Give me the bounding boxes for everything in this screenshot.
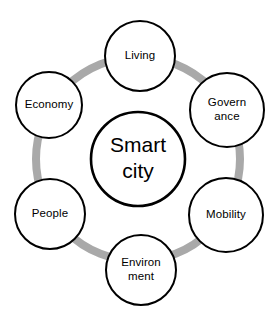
center-hub-layer: Smartcity	[91, 112, 185, 206]
node-governance[interactable]: Governance	[190, 73, 264, 147]
node-mobility-label-line1: Mobility	[206, 208, 246, 220]
smart-city-hub-label-line1: Smart	[110, 133, 166, 156]
node-people-label-line1: People	[32, 207, 68, 219]
node-governance-label-line2: ance	[214, 110, 239, 122]
node-environment[interactable]: Environment	[106, 235, 176, 305]
node-economy-label-line1: Economy	[25, 98, 74, 110]
node-economy[interactable]: Economy	[16, 72, 82, 138]
smart-city-diagram: LivingGovernanceMobilityEnvironmentPeopl…	[0, 0, 277, 320]
smart-city-hub-label-line2: city	[122, 159, 154, 182]
node-people[interactable]: People	[15, 179, 85, 249]
node-living[interactable]: Living	[105, 21, 175, 91]
smart-city-hub[interactable]: Smartcity	[91, 112, 185, 206]
node-mobility[interactable]: Mobility	[189, 178, 263, 252]
node-environment-label-line1: Environ	[121, 256, 161, 268]
node-living-label-line1: Living	[125, 49, 156, 61]
node-environment-label-line2: ment	[128, 270, 155, 282]
node-governance-label-line1: Govern	[208, 96, 246, 108]
smart-city-svg: LivingGovernanceMobilityEnvironmentPeopl…	[0, 0, 277, 320]
